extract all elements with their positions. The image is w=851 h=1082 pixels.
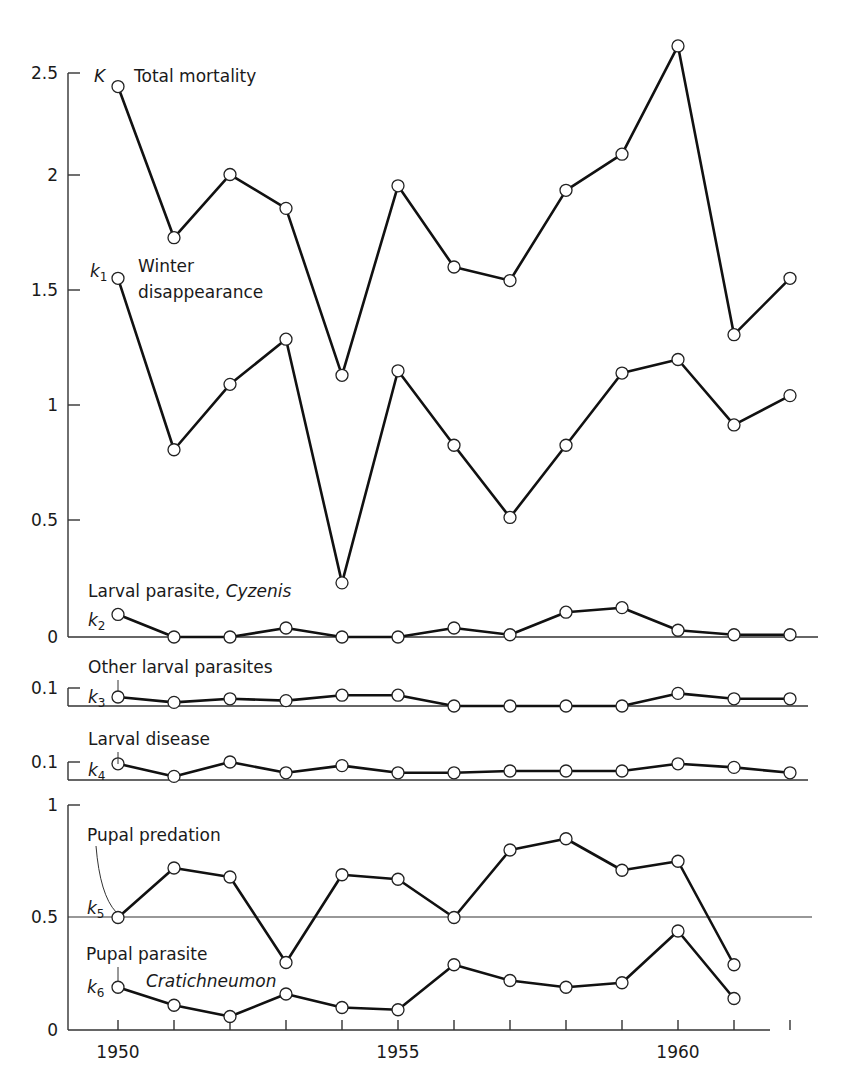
data-point-k6-1958 (560, 981, 572, 993)
data-point-k4-1956 (448, 767, 460, 779)
data-point-k3-1959 (616, 700, 628, 712)
key-factor-chart: 2.5 2 1.5 1 0.5 0 0.1 0.1 1 0.5 0 1950 1… (0, 0, 851, 1082)
k3-panel-axes: 0.1 (31, 678, 808, 706)
data-point-k1-1961 (728, 419, 740, 431)
data-point-k6-1952 (224, 1011, 236, 1023)
data-point-k4-1951 (168, 770, 180, 782)
x-tick-1960: 1960 (656, 1042, 699, 1062)
data-point-K-1960 (672, 40, 684, 52)
data-point-k1-1951 (168, 444, 180, 456)
data-point-K-1961 (728, 329, 740, 341)
k4-panel-axes: 0.1 (31, 752, 808, 780)
data-point-k4-1953 (280, 767, 292, 779)
data-point-k6-1956 (448, 959, 460, 971)
data-point-k1-1958 (560, 439, 572, 451)
data-point-k1-1960 (672, 354, 684, 366)
data-point-k6-1950 (112, 981, 124, 993)
k1-symbol: k1 (90, 261, 108, 284)
data-point-k6-1953 (280, 988, 292, 1000)
data-point-k3-1953 (280, 695, 292, 707)
y-tick-0: 0 (47, 627, 58, 647)
annotations: K Total mortality k1 Winter disappearanc… (86, 66, 291, 1000)
data-point-k4-1961 (728, 761, 740, 773)
data-point-k2-1955 (392, 631, 404, 643)
data-point-K-1956 (448, 261, 460, 273)
k3-symbol: k3 (88, 687, 106, 710)
data-point-k2-1952 (224, 631, 236, 643)
k4-label: Larval disease (88, 729, 210, 749)
data-point-k4-1957 (504, 765, 516, 777)
x-tick-1950: 1950 (96, 1042, 139, 1062)
x-tick-labels: 1950 1955 1960 (96, 1042, 699, 1062)
data-point-k3-1961 (728, 693, 740, 705)
data-point-k3-1962 (784, 693, 796, 705)
data-point-k2-1950 (112, 608, 124, 620)
data-point-k5-1951 (168, 862, 180, 874)
data-point-k5-1957 (504, 844, 516, 856)
data-point-k6-1955 (392, 1004, 404, 1016)
data-point-k3-1950 (112, 691, 124, 703)
data-point-K-1962 (784, 272, 796, 284)
data-point-k6-1960 (672, 925, 684, 937)
data-point-K-1959 (616, 148, 628, 160)
data-point-k4-1955 (392, 767, 404, 779)
y-tick-1.5: 1.5 (31, 280, 58, 300)
data-point-k3-1956 (448, 700, 460, 712)
K-label: Total mortality (133, 66, 256, 86)
k5-label: Pupal predation (87, 825, 221, 845)
data-point-k3-1960 (672, 687, 684, 699)
data-point-k2-1961 (728, 629, 740, 641)
data-point-k5-1953 (280, 957, 292, 969)
data-point-k1-1959 (616, 367, 628, 379)
k6-label-italic: Cratichneumon (146, 971, 277, 991)
data-point-K-1957 (504, 275, 516, 287)
series-line-k1 (118, 278, 790, 583)
data-point-k1-1950 (112, 272, 124, 284)
k2-label: Larval parasite, Cyzenis (88, 581, 291, 601)
data-point-k4-1958 (560, 765, 572, 777)
k6-label: Pupal parasite (86, 944, 207, 964)
data-point-k5-1952 (224, 871, 236, 883)
y-tick-1: 1 (47, 395, 58, 415)
k3-y-tick: 0.1 (31, 678, 58, 698)
data-point-k2-1958 (560, 606, 572, 618)
data-point-k1-1954 (336, 577, 348, 589)
data-point-k4-1960 (672, 758, 684, 770)
top-panel-axes (68, 73, 818, 637)
data-point-k5-1954 (336, 869, 348, 881)
series-line-k5 (118, 839, 734, 965)
data-point-K-1950 (112, 81, 124, 93)
data-point-k3-1954 (336, 689, 348, 701)
data-point-k1-1957 (504, 511, 516, 523)
data-point-k3-1951 (168, 696, 180, 708)
k3-label: Other larval parasites (88, 657, 273, 677)
data-point-k4-1959 (616, 765, 628, 777)
data-point-k1-1953 (280, 333, 292, 345)
data-point-k4-1962 (784, 767, 796, 779)
series-layer (112, 40, 796, 1023)
bottom-y-tick-0: 0 (47, 1020, 58, 1040)
data-point-k4-1954 (336, 760, 348, 772)
data-point-K-1951 (168, 232, 180, 244)
data-point-k5-1958 (560, 833, 572, 845)
data-point-k3-1957 (504, 700, 516, 712)
x-axis-ticks (118, 1020, 790, 1030)
data-point-k3-1958 (560, 700, 572, 712)
data-point-k6-1954 (336, 1002, 348, 1014)
data-point-k2-1954 (336, 631, 348, 643)
data-point-k6-1959 (616, 977, 628, 989)
k5-leader (96, 846, 116, 912)
data-point-k2-1951 (168, 631, 180, 643)
bottom-y-tick-1: 1 (47, 795, 58, 815)
data-point-k4-1952 (224, 756, 236, 768)
data-point-k2-1953 (280, 622, 292, 634)
data-point-k1-1952 (224, 378, 236, 390)
data-point-k6-1951 (168, 999, 180, 1011)
k2-symbol: k2 (88, 610, 106, 633)
data-point-k1-1956 (448, 439, 460, 451)
data-point-k5-1950 (112, 912, 124, 924)
x-tick-1955: 1955 (376, 1042, 419, 1062)
top-y-tick-labels: 2.5 2 1.5 1 0.5 0 (31, 63, 58, 647)
data-point-k5-1960 (672, 855, 684, 867)
data-point-K-1955 (392, 180, 404, 192)
